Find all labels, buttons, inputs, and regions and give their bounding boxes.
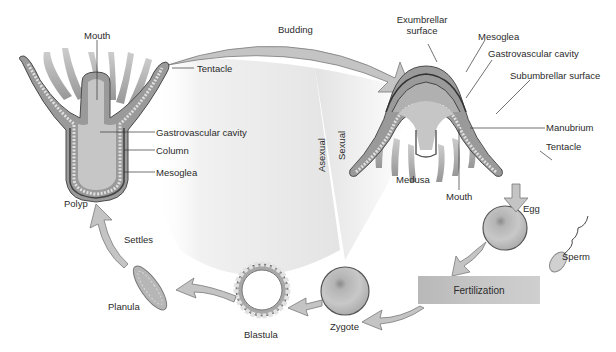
blastula-cell <box>236 264 288 316</box>
medusa-subumbrellar-surface-label: Subumbrellar surface <box>510 70 600 81</box>
polyp-column-label: Column <box>156 145 189 156</box>
polyp-name-label: Polyp <box>64 198 88 209</box>
arrow-settles <box>90 204 128 268</box>
exumbrellar-line1: Exumbrellar <box>392 14 452 25</box>
arrow-egg-to-fertilization <box>452 242 486 276</box>
sperm-cell <box>546 216 588 275</box>
exumbrellar-line2: surface <box>392 25 452 36</box>
arrow-fertilization-to-zygote <box>362 306 424 330</box>
medusa-manubrium-label: Manubrium <box>546 122 594 133</box>
medusa-mesoglea-label: Mesoglea <box>478 31 519 42</box>
medusa-gastrovascular-cavity-label: Gastrovascular cavity <box>488 48 579 59</box>
planula-label: Planula <box>108 301 140 312</box>
sexual-label: Sexual <box>336 131 347 160</box>
life-cycle-diagram: Mouth Tentacle Gastrovascular cavity Col… <box>0 0 616 352</box>
settles-label: Settles <box>124 234 153 245</box>
egg-label: Egg <box>523 203 540 214</box>
blastula-label: Blastula <box>244 329 278 340</box>
polyp-gastrovascular-cavity-label: Gastrovascular cavity <box>156 127 247 138</box>
polyp-tentacle-label: Tentacle <box>197 63 232 74</box>
zygote-label: Zygote <box>330 321 359 332</box>
budding-label: Budding <box>278 24 313 35</box>
fertilization-box: Fertilization <box>418 276 540 304</box>
arrow-zygote-to-blastula <box>288 298 322 316</box>
polyp-mesoglea-label: Mesoglea <box>156 167 197 178</box>
medusa-name-label: Medusa <box>396 174 430 185</box>
asexual-label: Asexual <box>316 138 327 172</box>
arrow-blastula-to-planula <box>176 278 236 302</box>
polyp-mouth-label: Mouth <box>84 30 110 41</box>
zygote-cell <box>321 267 369 315</box>
medusa-tentacle-label: Tentacle <box>546 141 581 152</box>
polyp-illustration <box>19 48 169 202</box>
medusa-exumbrellar-label: Exumbrellar surface <box>392 14 452 36</box>
egg-cell <box>483 206 527 250</box>
medusa-mouth-label: Mouth <box>446 191 472 202</box>
sperm-label: Sperm <box>562 251 590 262</box>
